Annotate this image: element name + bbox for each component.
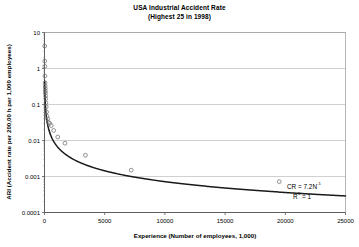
y-tick-label: 10: [33, 30, 40, 36]
x-axis-label: Experience (Number of employees, 1,000): [134, 232, 256, 239]
x-tick-label: 25000: [337, 218, 354, 224]
x-tick-label: 5000: [98, 218, 112, 224]
fit-equation-label: CR = 7.2N: [287, 183, 317, 190]
fit-equation-exponent: -1: [317, 181, 321, 186]
x-axis-ticks: 0500010000150002000025000: [43, 213, 355, 224]
y-axis-label: ARI (Accident rate per 200,00 h per 1,00…: [5, 44, 12, 199]
data-point-marker: [52, 129, 56, 133]
x-tick-label: 20000: [277, 218, 294, 224]
y-tick-label: 0.01: [28, 138, 40, 144]
chart-container: USA Industrial Accident Rate (Highest 25…: [0, 0, 359, 247]
data-point-marker: [84, 153, 88, 157]
y-tick-label: 0.1: [32, 102, 41, 108]
chart-plot-area: 0.00010.0010.010.1110 050001000015000200…: [0, 0, 359, 247]
data-point-marker: [277, 180, 281, 184]
fit-curve-path: [45, 81, 346, 196]
y-tick-label: 1: [37, 66, 41, 72]
fit-curve: [45, 81, 346, 196]
data-point-marker: [56, 135, 60, 139]
x-tick-label: 10000: [157, 218, 174, 224]
y-tick-label: 0.0001: [22, 210, 41, 216]
data-point-marker: [43, 74, 47, 78]
data-point-marker: [63, 141, 67, 145]
y-tick-label: 0.001: [25, 174, 41, 180]
x-tick-label: 15000: [217, 218, 234, 224]
y-axis-ticks: 0.00010.0010.010.1110: [22, 30, 45, 216]
fit-annotation: CR = 7.2N -1 R 2 = 1: [287, 181, 321, 200]
r-squared-value: = 1: [302, 193, 312, 200]
data-point-marker: [129, 168, 133, 172]
x-tick-label: 0: [43, 218, 47, 224]
